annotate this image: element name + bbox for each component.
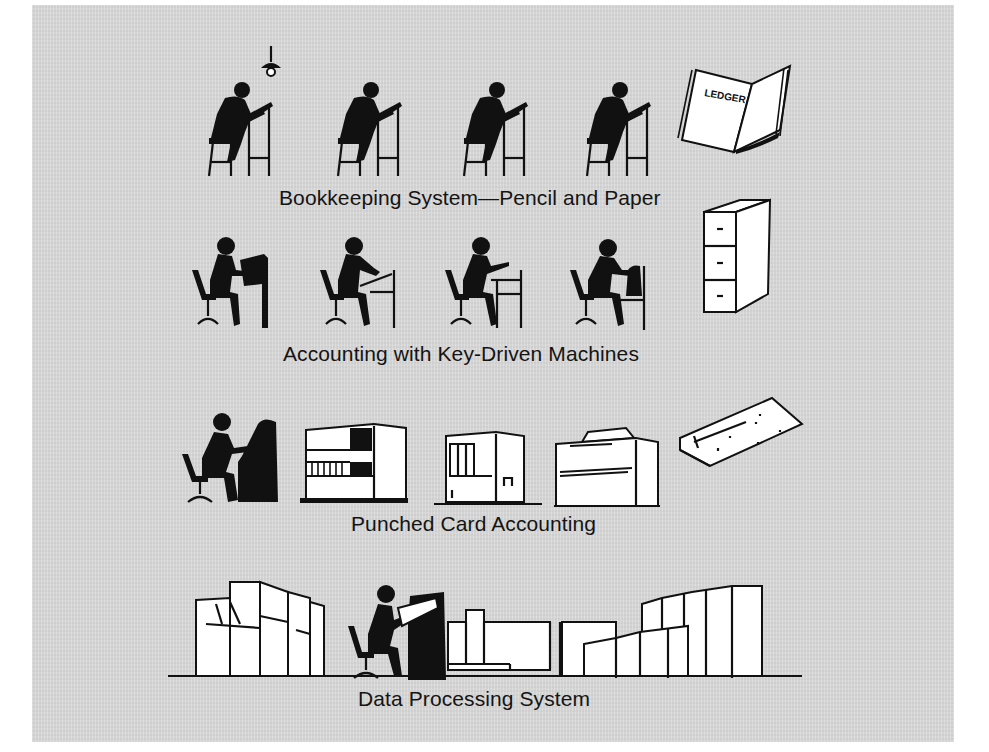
- caption-keydriven: Accounting with Key-Driven Machines: [283, 342, 639, 366]
- computer-units-left-icon: [168, 572, 368, 682]
- computer-units-right-icon: [556, 578, 766, 682]
- operator-at-desk-icon: [441, 236, 525, 330]
- filing-cabinet-icon: [700, 196, 774, 316]
- clerk-on-stool-icon: [205, 80, 277, 178]
- clerk-on-stool-icon: [334, 80, 406, 178]
- floor-line: [168, 674, 802, 678]
- caption-data-processing: Data Processing System: [358, 687, 590, 711]
- tabulator-icon: [552, 424, 662, 510]
- operator-at-desk-icon: [188, 236, 272, 330]
- clerk-on-stool-icon: [460, 80, 532, 178]
- punched-card-icon: [676, 392, 804, 472]
- operator-at-desk-icon: [316, 236, 400, 330]
- card-sorter-icon: [298, 422, 410, 506]
- computer-units-center-icon: [446, 608, 556, 678]
- caption-bookkeeping: Bookkeeping System—Pencil and Paper: [279, 186, 661, 210]
- ledger-book-icon: LEDGER: [674, 60, 800, 156]
- keypunch-operator-icon: [178, 412, 282, 504]
- card-collator-icon: [432, 430, 544, 508]
- operator-at-desk-icon: [566, 236, 650, 330]
- clerk-on-stool-icon: [583, 80, 655, 178]
- console-operator-icon: [340, 584, 450, 680]
- caption-punched-card: Punched Card Accounting: [351, 512, 596, 536]
- hanging-lamp-icon: [258, 46, 284, 80]
